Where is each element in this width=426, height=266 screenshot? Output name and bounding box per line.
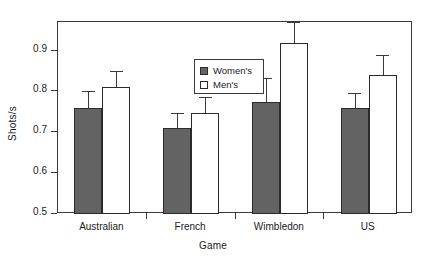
x-tick-mark: [146, 213, 147, 219]
legend-label-mens: Men's: [213, 79, 238, 90]
bar-wimbledon-womens: [252, 102, 280, 214]
error-bar-cap: [82, 91, 95, 92]
y-tick-label: 0.8: [33, 83, 47, 94]
error-bar-stem: [177, 113, 178, 128]
y-tick-mark: [51, 213, 57, 214]
y-tick-label: 0.5: [33, 206, 47, 217]
error-bar-australian-womens: [82, 91, 95, 107]
legend-label-womens: Women's: [213, 65, 252, 76]
error-bar-stem: [294, 22, 295, 43]
error-bar-french-mens: [199, 97, 212, 113]
bar-australian-womens: [74, 108, 102, 214]
error-bar-stem: [88, 91, 89, 107]
x-tick-label-us: US: [318, 221, 418, 232]
error-bar-stem: [383, 55, 384, 75]
y-tick-label: 0.7: [33, 124, 47, 135]
error-bar-cap: [376, 55, 389, 56]
error-bar-stem: [205, 97, 206, 113]
error-bar-wimbledon-mens: [287, 22, 300, 43]
error-bar-cap: [171, 113, 184, 114]
x-tick-mark: [235, 213, 236, 219]
legend-swatch-womens-icon: [200, 67, 208, 75]
x-tick-label-french: French: [140, 221, 240, 232]
legend-swatch-mens-icon: [200, 81, 208, 89]
error-bar-cap: [287, 22, 300, 23]
x-axis-title: Game: [0, 240, 426, 251]
error-bar-stem: [116, 71, 117, 87]
y-tick-label: 0.9: [33, 43, 47, 54]
legend-item-mens: Men's: [200, 78, 258, 91]
y-axis-title: Shots/s: [7, 94, 18, 154]
chart-legend: Women's Men's: [194, 59, 264, 94]
legend-item-womens: Women's: [200, 64, 258, 77]
bar-us-mens: [369, 75, 397, 214]
error-bar-stem: [355, 93, 356, 108]
bar-french-mens: [191, 113, 219, 214]
x-tick-label-wimbledon: Wimbledon: [229, 221, 329, 232]
x-tick-label-australian: Australian: [51, 221, 151, 232]
bar-us-womens: [341, 108, 369, 214]
bar-chart-figure: Shots/s Game 0.50.60.70.80.9 AustralianF…: [0, 0, 426, 266]
bar-french-womens: [163, 128, 191, 214]
error-bar-cap: [199, 97, 212, 98]
bar-wimbledon-mens: [280, 43, 308, 214]
error-bar-us-mens: [376, 55, 389, 75]
plot-area: Women's Men's: [57, 21, 412, 213]
error-bar-australian-mens: [110, 71, 123, 87]
error-bar-stem: [266, 78, 267, 102]
error-bar-cap: [110, 71, 123, 72]
error-bar-cap: [348, 93, 361, 94]
error-bar-us-womens: [348, 93, 361, 108]
x-tick-mark: [323, 213, 324, 219]
bar-australian-mens: [102, 87, 130, 214]
y-tick-label: 0.6: [33, 165, 47, 176]
error-bar-french-womens: [171, 113, 184, 128]
